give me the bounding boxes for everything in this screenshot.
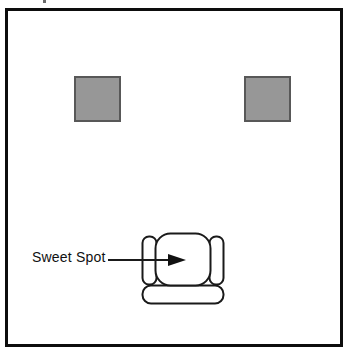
right-speaker [244,76,291,122]
figure-root: Sweet Spot [0,0,351,355]
sweet-spot-label: Sweet Spot [32,249,106,265]
sofa-seat-cushion [143,286,224,304]
sweet-spot-arrow [108,250,192,270]
scan-artifact-speck [43,0,46,3]
sofa-right-armrest [210,237,224,285]
arrow-head-icon [168,254,186,266]
left-speaker [74,76,121,122]
